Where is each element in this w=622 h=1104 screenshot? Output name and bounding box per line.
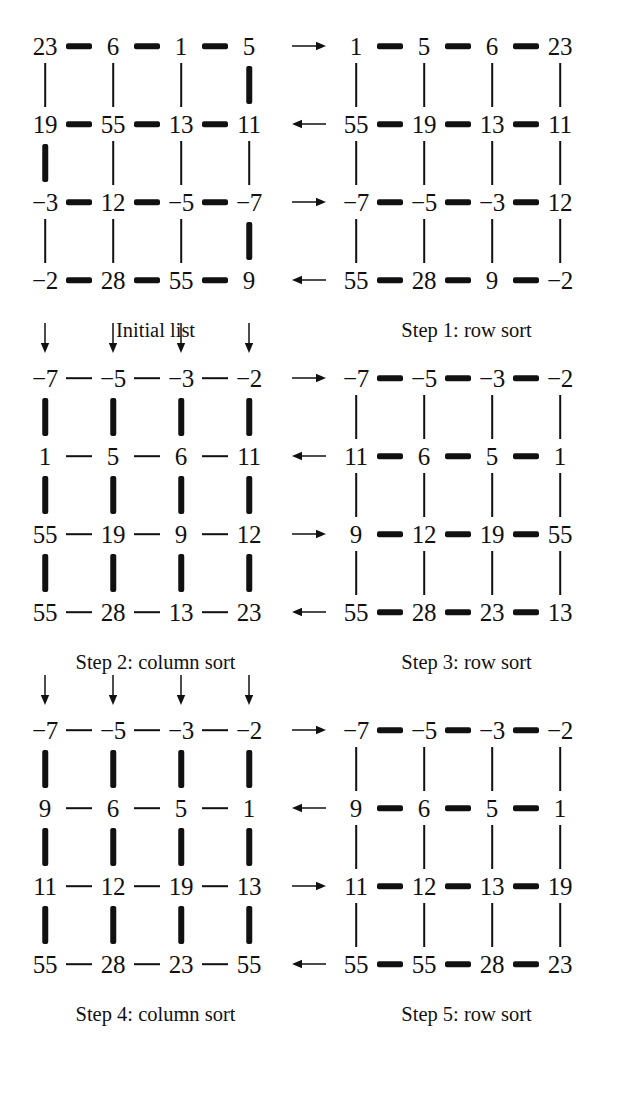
mesh-cell-r1-c0: 9 bbox=[39, 796, 51, 821]
arrow-left-icon bbox=[292, 959, 326, 969]
mesh-grid: −7−5−3−215611551991255281323 bbox=[23, 360, 288, 615]
mesh-cell-r1-c0: 9 bbox=[350, 796, 362, 821]
h-edge-r3-c2 bbox=[202, 963, 228, 965]
v-edge-r2-c2 bbox=[491, 903, 493, 947]
panel-caption: Step 4: column sort bbox=[0, 1004, 311, 1025]
h-edge-r3-c0 bbox=[66, 963, 92, 965]
v-edge-r2-c3 bbox=[246, 554, 252, 592]
mesh-cell-r0-c2: −3 bbox=[168, 366, 194, 391]
v-edge-r1-c1 bbox=[423, 825, 425, 869]
mesh-cell-r0-c0: −7 bbox=[32, 366, 58, 391]
arrow-right-icon bbox=[292, 725, 326, 735]
h-edge-r3-c1 bbox=[134, 277, 160, 283]
h-edge-r2-c0 bbox=[377, 883, 403, 889]
h-edge-r0-c2 bbox=[513, 727, 539, 733]
arrow-down-icon bbox=[108, 323, 118, 353]
h-edge-r2-c0 bbox=[66, 199, 92, 205]
mesh-cell-r3-c3: 13 bbox=[548, 600, 573, 625]
mesh-cell-r2-c0: 55 bbox=[33, 522, 58, 547]
v-edge-r1-c3 bbox=[246, 476, 252, 514]
mesh-cell-r2-c3: 13 bbox=[237, 874, 262, 899]
mesh-cell-r3-c1: 28 bbox=[412, 600, 437, 625]
mesh-cell-r0-c3: 23 bbox=[548, 34, 573, 59]
mesh-cell-r3-c0: 55 bbox=[344, 952, 369, 977]
mesh-cell-r1-c3: 11 bbox=[548, 112, 572, 137]
mesh-cell-r2-c2: 13 bbox=[480, 874, 505, 899]
h-edge-r2-c1 bbox=[134, 885, 160, 887]
mesh-cell-r1-c0: 55 bbox=[344, 112, 369, 137]
mesh-cell-r3-c3: 55 bbox=[237, 952, 262, 977]
h-edge-r3-c0 bbox=[377, 277, 403, 283]
arrow-left-icon bbox=[292, 451, 326, 461]
mesh-cell-r0-c1: −5 bbox=[100, 718, 126, 743]
v-edge-r1-c3 bbox=[246, 828, 252, 866]
h-edge-r0-c2 bbox=[513, 375, 539, 381]
mesh-cell-r2-c3: 12 bbox=[237, 522, 262, 547]
v-edge-r1-c2 bbox=[180, 141, 182, 185]
mesh-cell-r3-c2: 28 bbox=[480, 952, 505, 977]
h-edge-r1-c2 bbox=[202, 455, 228, 457]
mesh-cell-r1-c2: 13 bbox=[480, 112, 505, 137]
v-edge-r0-c3 bbox=[246, 750, 252, 788]
v-edge-r0-c0 bbox=[355, 63, 357, 107]
mesh-grid: −7−5−3−296511112131955552823 bbox=[334, 712, 599, 967]
v-edge-r1-c0 bbox=[355, 473, 357, 517]
h-edge-r2-c2 bbox=[202, 199, 228, 205]
mesh-cell-r1-c2: 5 bbox=[486, 796, 498, 821]
h-edge-r3-c0 bbox=[66, 611, 92, 613]
mesh-cell-r3-c3: 9 bbox=[243, 268, 255, 293]
h-edge-r3-c2 bbox=[513, 961, 539, 967]
v-edge-r2-c1 bbox=[110, 906, 116, 944]
h-edge-r3-c2 bbox=[202, 277, 228, 283]
v-edge-r0-c1 bbox=[112, 63, 114, 107]
h-edge-r3-c0 bbox=[377, 609, 403, 615]
h-edge-r1-c0 bbox=[66, 807, 92, 809]
v-edge-r0-c0 bbox=[355, 395, 357, 439]
v-edge-r0-c2 bbox=[491, 395, 493, 439]
mesh-cell-r2-c1: 12 bbox=[101, 190, 126, 215]
mesh-cell-r2-c0: 9 bbox=[350, 522, 362, 547]
h-edge-r1-c0 bbox=[377, 805, 403, 811]
mesh-cell-r1-c3: 1 bbox=[243, 796, 255, 821]
h-edge-r2-c1 bbox=[445, 199, 471, 205]
v-edge-r0-c3 bbox=[559, 63, 561, 107]
h-edge-r1-c1 bbox=[445, 805, 471, 811]
v-edge-r1-c1 bbox=[423, 473, 425, 517]
mesh-cell-r0-c0: −7 bbox=[32, 718, 58, 743]
h-edge-r0-c2 bbox=[202, 43, 228, 49]
h-edge-r1-c0 bbox=[377, 121, 403, 127]
mesh-cell-r1-c0: 19 bbox=[33, 112, 58, 137]
panel-step1: 1562355191311−7−5−31255289−2Step 1: row … bbox=[311, 28, 622, 283]
mesh-cell-r1-c1: 55 bbox=[101, 112, 126, 137]
v-edge-r2-c0 bbox=[42, 906, 48, 944]
v-edge-r0-c0 bbox=[42, 398, 48, 436]
h-edge-r3-c1 bbox=[445, 961, 471, 967]
mesh-cell-r0-c0: −7 bbox=[343, 366, 369, 391]
h-edge-r3-c2 bbox=[513, 609, 539, 615]
mesh-cell-r2-c0: 11 bbox=[33, 874, 57, 899]
arrow-down-icon bbox=[176, 675, 186, 705]
h-edge-r1-c2 bbox=[513, 805, 539, 811]
v-edge-r2-c2 bbox=[178, 554, 184, 592]
h-edge-r0-c0 bbox=[377, 43, 403, 49]
v-edge-r2-c1 bbox=[423, 551, 425, 595]
mesh-cell-r2-c0: 11 bbox=[344, 874, 368, 899]
h-edge-r2-c1 bbox=[134, 199, 160, 205]
h-edge-r2-c0 bbox=[66, 533, 92, 535]
h-edge-r3-c0 bbox=[377, 961, 403, 967]
mesh-cell-r0-c1: 5 bbox=[418, 34, 430, 59]
h-edge-r0-c1 bbox=[445, 375, 471, 381]
mesh-cell-r0-c2: 6 bbox=[486, 34, 498, 59]
h-edge-r1-c1 bbox=[445, 453, 471, 459]
mesh-cell-r2-c0: −7 bbox=[343, 190, 369, 215]
h-edge-r3-c1 bbox=[445, 277, 471, 283]
mesh-cell-r2-c2: −5 bbox=[168, 190, 194, 215]
mesh-cell-r1-c1: 5 bbox=[107, 444, 119, 469]
h-edge-r1-c2 bbox=[513, 121, 539, 127]
v-edge-r0-c3 bbox=[246, 398, 252, 436]
arrow-right-icon bbox=[292, 529, 326, 539]
mesh-cell-r2-c1: 12 bbox=[412, 874, 437, 899]
v-edge-r1-c1 bbox=[423, 141, 425, 185]
v-edge-r2-c0 bbox=[44, 219, 46, 263]
v-edge-r1-c3 bbox=[559, 141, 561, 185]
